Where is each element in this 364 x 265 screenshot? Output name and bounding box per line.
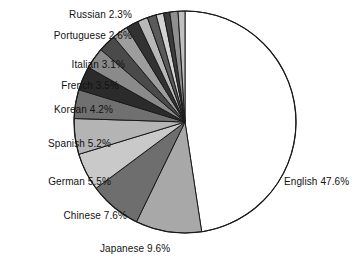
pie-label-french: French 3.5% [14,80,119,91]
pie-slice-english [185,11,296,232]
pie-chart-figure: Russian 2.3% Portuguese 2.6% Italian 3.1… [0,0,364,265]
pie-label-korean: Korean 4.2% [8,104,113,115]
pie-label-portuguese: Portuguese 2.6% [6,30,132,41]
pie-label-russian: Russian 2.3% [20,9,132,20]
pie-slice-group [74,11,296,233]
pie-label-chinese: Chinese 7.6% [26,210,127,221]
pie-label-italian: Italian 3.1% [20,59,125,70]
pie-label-spanish: Spanish 5.2% [4,138,111,149]
pie-label-japanese: Japanese 9.6% [100,243,230,254]
pie-label-german: German 5.5% [8,176,111,187]
pie-label-english: English 47.6% [284,176,364,187]
